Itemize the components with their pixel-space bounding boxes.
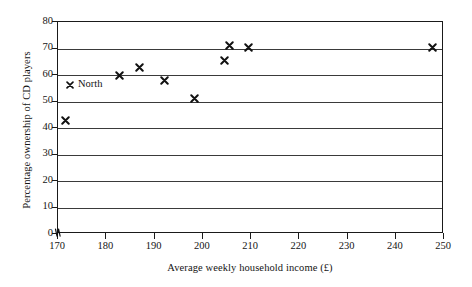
x-tick-mark — [443, 233, 444, 239]
legend-label-north: North — [78, 78, 103, 90]
data-point-marker — [225, 41, 234, 50]
data-point-marker — [428, 43, 437, 52]
y-tick-label: 40 — [0, 122, 60, 132]
data-point-marker — [190, 94, 199, 103]
x-tick-mark — [250, 233, 251, 239]
x-tick-label: 180 — [85, 240, 125, 251]
scatter-chart: Percentage ownership of CD players 01020… — [0, 0, 472, 287]
y-tick-label: 70 — [0, 42, 60, 52]
x-tick-label: 220 — [278, 240, 318, 251]
y-tick-label: 20 — [0, 175, 60, 185]
x-tick-mark — [395, 233, 396, 239]
x-tick-label: 250 — [423, 240, 463, 251]
x-tick-mark — [347, 233, 348, 239]
gridline — [58, 208, 442, 209]
legend-marker-x-icon — [66, 80, 74, 88]
x-tick-mark — [105, 233, 106, 239]
x-tick-label: 170 — [37, 240, 77, 251]
data-point-marker — [61, 116, 70, 125]
x-tick-mark — [202, 233, 203, 239]
x-tick-label: 200 — [182, 240, 222, 251]
x-tick-mark — [298, 233, 299, 239]
x-axis-title: Average weekly household income (£) — [57, 262, 443, 273]
data-point-marker — [244, 43, 253, 52]
gridline — [58, 128, 442, 129]
plot-area: North — [57, 21, 443, 233]
gridline — [58, 155, 442, 156]
axis-break-icon — [51, 226, 65, 240]
y-tick-label: 30 — [0, 148, 60, 158]
data-point-marker — [115, 71, 124, 80]
data-point-marker — [160, 76, 169, 85]
y-tick-label: 10 — [0, 201, 60, 211]
x-tick-label: 240 — [375, 240, 415, 251]
gridline — [58, 181, 442, 182]
gridline — [58, 102, 442, 103]
x-tick-label: 190 — [134, 240, 174, 251]
y-tick-label: 80 — [0, 16, 60, 26]
y-tick-label: 60 — [0, 69, 60, 79]
x-tick-label: 210 — [230, 240, 270, 251]
x-tick-mark — [154, 233, 155, 239]
data-point-marker — [220, 56, 229, 65]
data-point-marker — [135, 63, 144, 72]
y-tick-label: 50 — [0, 95, 60, 105]
x-tick-label: 230 — [327, 240, 367, 251]
